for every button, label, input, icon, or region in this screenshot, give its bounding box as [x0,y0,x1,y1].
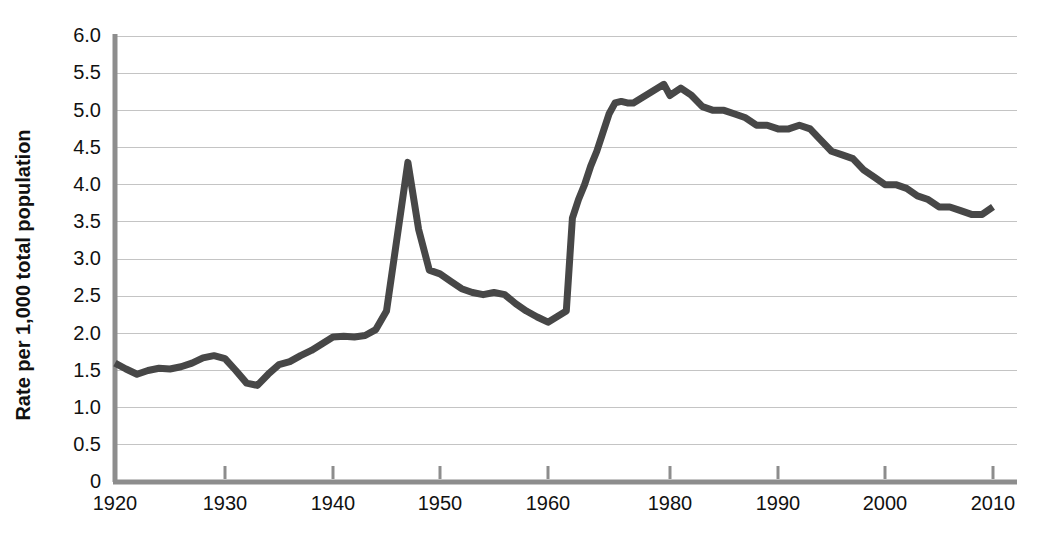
x-tick-label: 1950 [418,492,463,514]
x-tick-labels-group: 192019301940195019601980199020002010 [93,492,1016,514]
x-tick-label: 1980 [648,492,693,514]
data-line [115,84,993,385]
y-tick-label: 0 [90,470,101,492]
y-tick-label: 4.0 [73,173,101,195]
y-tick-label: 2.5 [73,284,101,306]
y-tick-label: 5.5 [73,61,101,83]
x-tick-label: 2010 [971,492,1016,514]
line-chart-plot: 00.51.01.52.02.53.03.54.04.55.05.56.0 19… [0,0,1052,550]
y-tick-labels-group: 00.51.01.52.02.53.03.54.04.55.05.56.0 [73,24,101,492]
x-tick-label: 1990 [756,492,801,514]
x-tick-marks-group [225,466,993,479]
y-tick-label: 2.0 [73,322,101,344]
x-tick-label: 1960 [526,492,571,514]
x-tick-label: 1930 [203,492,248,514]
axis-spines-group [113,34,1017,482]
chart-figure: Rate per 1,000 total population 00.51.01… [0,0,1052,550]
y-tick-label: 1.5 [73,359,101,381]
y-tick-label: 3.5 [73,210,101,232]
y-tick-label: 3.0 [73,247,101,269]
y-tick-label: 5.0 [73,99,101,121]
y-tick-label: 4.5 [73,136,101,158]
y-tick-label: 6.0 [73,24,101,46]
x-tick-label: 1940 [311,492,356,514]
y-tick-label: 0.5 [73,433,101,455]
x-tick-label: 2000 [863,492,908,514]
x-tick-label: 1920 [93,492,138,514]
y-tick-label: 1.0 [73,396,101,418]
data-series-group [115,84,993,385]
